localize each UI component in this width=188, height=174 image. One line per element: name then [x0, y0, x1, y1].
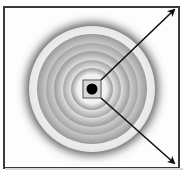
concentric-target-diagram — [0, 0, 188, 174]
center-dot — [87, 84, 98, 95]
